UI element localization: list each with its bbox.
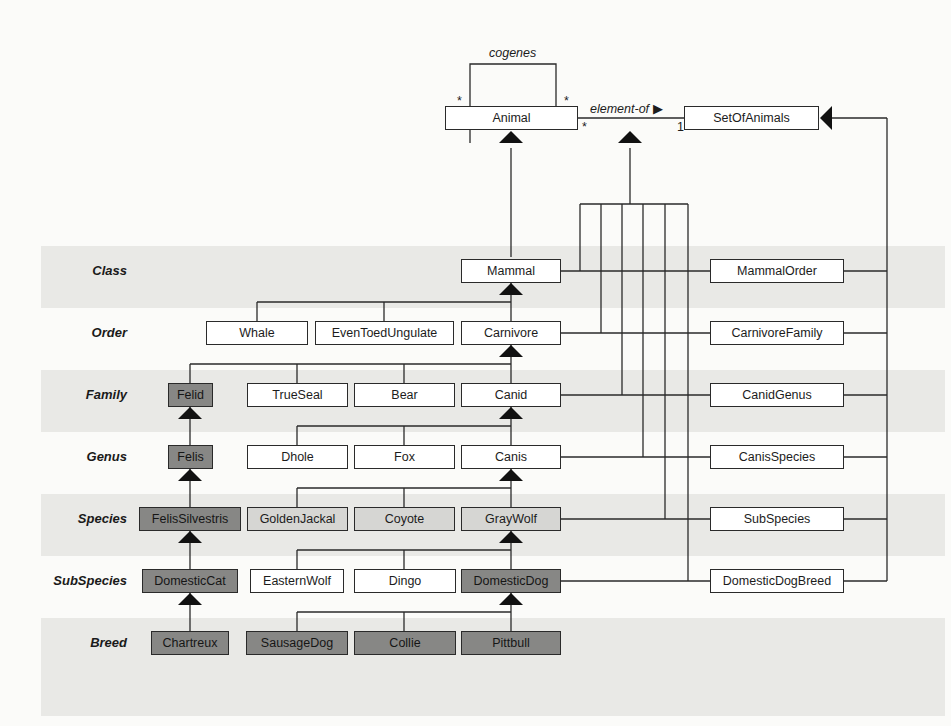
class-canid[interactable]: Canid	[461, 383, 561, 407]
class-carnivore[interactable]: Carnivore	[461, 321, 561, 345]
class-animal[interactable]: Animal	[445, 106, 578, 130]
class-even-toed-ungulate[interactable]: EvenToedUngulate	[315, 321, 454, 345]
row-label-genus: Genus	[37, 445, 127, 469]
class-coyote[interactable]: Coyote	[354, 507, 455, 531]
class-pittbull[interactable]: Pittbull	[461, 631, 561, 655]
powertype-canis-species[interactable]: CanisSpecies	[710, 445, 844, 469]
generalization-arrow-icon	[499, 345, 523, 357]
row-label-order: Order	[37, 321, 127, 345]
multiplicity-element-of-animal: *	[582, 120, 587, 134]
generalization-arrow-icon	[499, 283, 523, 295]
powertype-canid-genus[interactable]: CanidGenus	[710, 383, 844, 407]
class-collie[interactable]: Collie	[354, 631, 456, 655]
class-gray-wolf[interactable]: GrayWolf	[461, 507, 561, 531]
row-label-species: Species	[37, 507, 127, 531]
class-dingo[interactable]: Dingo	[354, 569, 456, 593]
row-label-subspecies: SubSpecies	[37, 569, 127, 593]
class-mammal[interactable]: Mammal	[461, 259, 561, 283]
generalization-arrow-icon	[499, 407, 523, 419]
class-fox[interactable]: Fox	[354, 445, 455, 469]
cogenes-label: cogenes	[489, 46, 536, 60]
class-set-of-animals[interactable]: SetOfAnimals	[684, 106, 819, 130]
powertype-mammal-order[interactable]: MammalOrder	[710, 259, 844, 283]
arrow-left-icon	[820, 106, 832, 130]
class-domestic-cat[interactable]: DomesticCat	[142, 569, 238, 593]
row-label-breed: Breed	[37, 631, 127, 655]
generalization-arrow-icon	[178, 407, 202, 419]
generalization-arrow-icon	[618, 131, 642, 143]
class-dhole[interactable]: Dhole	[247, 445, 348, 469]
generalization-arrow-icon	[499, 531, 523, 543]
generalization-arrow-icon	[178, 593, 202, 605]
powertype-carnivore-family[interactable]: CarnivoreFamily	[710, 321, 844, 345]
class-golden-jackal[interactable]: GoldenJackal	[247, 507, 348, 531]
powertype-subspecies[interactable]: SubSpecies	[710, 507, 844, 531]
row-label-family: Family	[37, 383, 127, 407]
row-label-class: Class	[37, 259, 127, 283]
class-domestic-dog[interactable]: DomesticDog	[461, 569, 561, 593]
class-bear[interactable]: Bear	[354, 383, 455, 407]
element-of-label: element-of ▶	[590, 101, 663, 116]
generalization-arrow-icon	[178, 469, 202, 481]
class-canis[interactable]: Canis	[461, 445, 561, 469]
generalization-arrow-icon	[178, 531, 202, 543]
class-chartreux[interactable]: Chartreux	[151, 631, 229, 655]
element-of-text: element-of	[590, 102, 649, 116]
class-felis[interactable]: Felis	[168, 445, 213, 469]
powertype-domestic-dog-breed[interactable]: DomesticDogBreed	[710, 569, 844, 593]
generalization-arrow-icon	[499, 469, 523, 481]
multiplicity-element-of-set: 1	[677, 120, 684, 134]
generalization-arrow-icon	[499, 131, 523, 143]
class-eastern-wolf[interactable]: EasternWolf	[250, 569, 344, 593]
class-felid[interactable]: Felid	[168, 383, 213, 407]
direction-arrow-icon: ▶	[653, 102, 663, 116]
class-felis-silvestris[interactable]: FelisSilvestris	[139, 507, 241, 531]
class-sausage-dog[interactable]: SausageDog	[246, 631, 348, 655]
class-whale[interactable]: Whale	[206, 321, 308, 345]
generalization-arrow-icon	[499, 593, 523, 605]
class-true-seal[interactable]: TrueSeal	[247, 383, 348, 407]
